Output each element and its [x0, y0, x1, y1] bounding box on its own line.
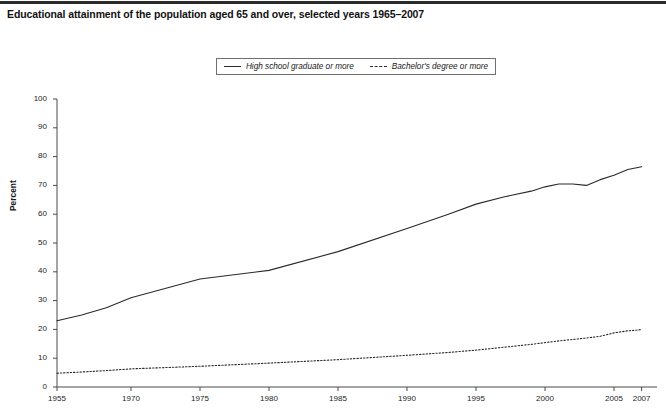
series-line-1 [57, 167, 642, 321]
chart-plot-area [0, 0, 666, 410]
figure-panel: Educational attainment of the population… [0, 0, 666, 410]
series-line-2 [57, 330, 642, 373]
